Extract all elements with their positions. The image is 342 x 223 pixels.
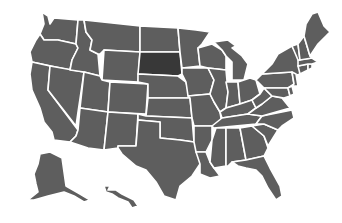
state-montana[interactable]: Montana (84, 20, 140, 54)
state-north-dakota[interactable]: North Dakota (140, 26, 180, 52)
state-rhode-island[interactable]: Rhode Island (308, 64, 312, 70)
state-new-mexico[interactable]: New Mexico (104, 112, 138, 150)
state-kansas[interactable]: Kansas (146, 98, 192, 118)
state-iowa[interactable]: Iowa (182, 68, 214, 96)
state-colorado[interactable]: Colorado (108, 82, 148, 114)
state-wyoming[interactable]: Wyoming (102, 50, 140, 82)
state-south-dakota[interactable]: South Dakota (138, 52, 182, 76)
state-delaware[interactable]: Delaware (288, 86, 294, 96)
us-map: WashingtonOregonCaliforniaNevadaIdahoMon… (0, 0, 342, 223)
